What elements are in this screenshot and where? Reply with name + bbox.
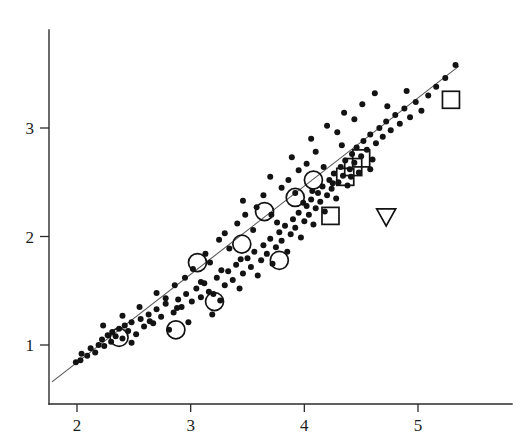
data-point: [324, 192, 330, 198]
y-tick-label: 1: [26, 336, 35, 355]
data-point: [175, 296, 181, 302]
data-point: [154, 306, 160, 312]
data-point: [209, 312, 215, 318]
highlight-triangle-marker: [377, 209, 396, 226]
data-point: [313, 205, 319, 211]
data-point: [298, 235, 304, 241]
data-point: [292, 225, 298, 231]
data-point: [407, 114, 413, 120]
data-point: [163, 295, 169, 301]
y-tick-label: 2: [26, 228, 35, 247]
data-point: [182, 275, 188, 281]
data-point: [99, 337, 105, 343]
data-point: [304, 161, 310, 167]
data-point: [292, 190, 298, 196]
data-point: [317, 199, 323, 205]
data-point: [147, 318, 153, 324]
data-point: [308, 136, 314, 142]
highlight-circle-marker: [233, 235, 251, 253]
data-point: [341, 110, 347, 116]
data-point: [276, 229, 282, 235]
highlight-circle-marker: [270, 251, 288, 269]
data-point: [308, 197, 314, 203]
data-point: [282, 223, 288, 229]
data-point: [425, 92, 431, 98]
data-point: [260, 242, 266, 248]
data-point: [267, 236, 273, 242]
data-point: [119, 313, 125, 319]
data-point: [279, 238, 285, 244]
data-point: [233, 262, 239, 268]
data-point: [137, 304, 143, 310]
data-point: [372, 90, 378, 96]
data-point: [339, 142, 345, 148]
data-point: [185, 319, 191, 325]
data-point: [404, 88, 410, 94]
data-point: [321, 164, 327, 170]
data-point: [183, 291, 189, 297]
data-point: [324, 123, 330, 129]
data-point: [397, 121, 403, 127]
data-point: [290, 216, 296, 222]
axes: [49, 30, 512, 404]
data-point: [198, 294, 204, 300]
data-point: [222, 230, 228, 236]
data-point: [285, 177, 291, 183]
data-point: [296, 210, 302, 216]
data-point: [158, 314, 164, 320]
data-point: [172, 282, 178, 288]
data-point: [189, 299, 195, 305]
data-point: [129, 319, 135, 325]
data-point: [401, 105, 407, 111]
data-point: [313, 149, 319, 155]
data-point: [329, 186, 335, 192]
data-point: [138, 316, 144, 322]
data-point: [113, 333, 119, 339]
data-point: [237, 286, 243, 292]
data-point: [360, 138, 366, 144]
data-point: [207, 260, 213, 266]
data-point: [250, 227, 256, 233]
data-point: [100, 322, 106, 328]
data-point: [418, 108, 424, 114]
data-point: [92, 350, 98, 356]
data-point: [333, 196, 339, 202]
data-point: [288, 231, 294, 237]
data-point: [163, 301, 169, 307]
data-point: [310, 222, 316, 228]
data-point: [141, 324, 147, 330]
data-point: [77, 357, 83, 363]
data-point: [255, 273, 261, 279]
data-point: [330, 180, 336, 186]
data-point: [242, 212, 248, 218]
data-point: [383, 118, 389, 124]
data-point: [174, 305, 180, 311]
data-point: [88, 345, 94, 351]
data-point: [367, 132, 373, 138]
data-point: [119, 335, 125, 341]
data-point: [238, 256, 244, 262]
data-point: [442, 75, 448, 81]
data-point: [453, 62, 459, 68]
data-point: [216, 237, 222, 243]
x-tick-label: 5: [414, 416, 423, 435]
highlight-square-marker: [442, 91, 459, 108]
data-point: [218, 267, 224, 273]
data-point: [133, 331, 139, 337]
data-point: [260, 192, 266, 198]
data-point: [84, 353, 90, 359]
x-tick-label: 2: [73, 416, 82, 435]
data-point: [334, 129, 340, 135]
data-point: [376, 125, 382, 131]
data-point: [79, 351, 85, 357]
data-point: [214, 275, 220, 281]
data-point: [388, 127, 394, 133]
data-point: [245, 255, 251, 261]
data-point: [198, 279, 204, 285]
data-point: [359, 101, 365, 107]
data-point: [258, 257, 264, 263]
data-point: [234, 220, 240, 226]
data-point: [392, 112, 398, 118]
data-point: [154, 290, 160, 296]
data-points: [73, 62, 459, 365]
